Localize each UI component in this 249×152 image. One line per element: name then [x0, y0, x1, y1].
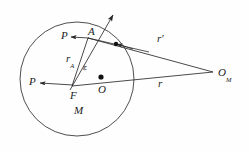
center-point-O-dot [98, 74, 103, 79]
label-point-F: F [70, 90, 77, 101]
label-vector-r-prime: r′ [157, 33, 164, 44]
label-point-O: O [98, 84, 106, 95]
label-P-upper: P [61, 30, 68, 41]
label-radius-rA: rA [66, 49, 74, 68]
label-angle-epsilon: ε [83, 64, 87, 72]
P-arrow-upper-line [71, 37, 89, 38]
vector-r-prime-line [88, 38, 213, 72]
P-arrow-lower-line [40, 83, 73, 85]
label-vector-r: r [158, 78, 162, 89]
body-circle [20, 22, 134, 136]
label-body-M: M [74, 105, 83, 116]
label-point-OM: OM [218, 63, 231, 82]
label-P-lower: P [29, 76, 36, 87]
label-radius-rA-subscript: A [70, 62, 74, 69]
vector-r-line [72, 72, 213, 86]
geometry-figure: P P A rA ε F O r′ r M OM [0, 0, 249, 152]
figure-canvas [0, 0, 249, 152]
intersection-point-dot [114, 42, 118, 46]
label-point-A: A [88, 26, 95, 37]
label-point-OM-subscript: M [226, 76, 231, 83]
label-point-OM-base: O [218, 66, 226, 78]
